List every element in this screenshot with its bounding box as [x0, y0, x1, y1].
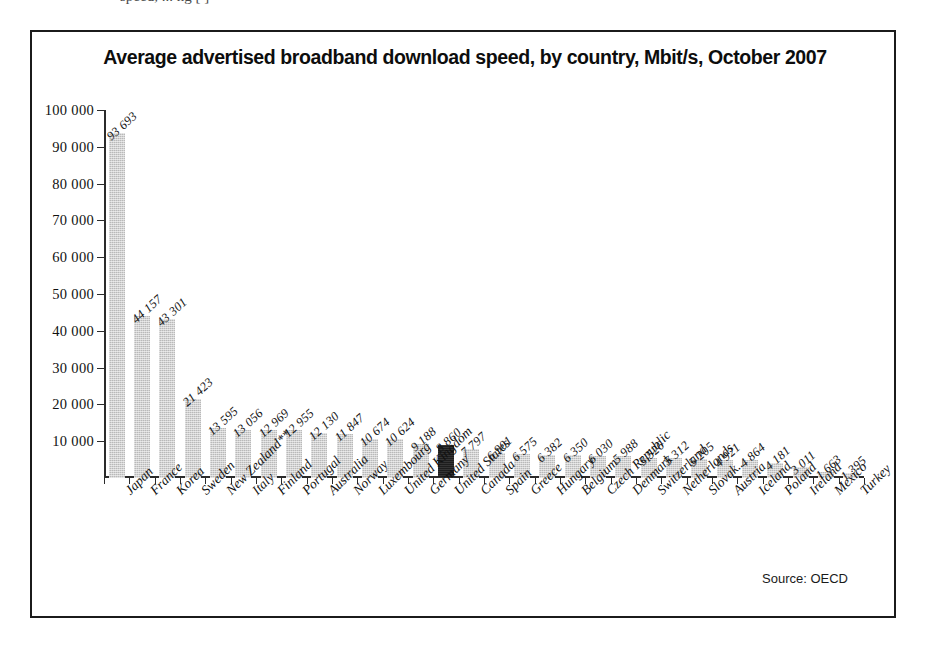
y-axis-tick	[97, 294, 104, 295]
x-axis-category-label: Czech Republic	[603, 487, 614, 498]
x-axis-category-label: Portugal	[299, 487, 310, 498]
source-note: Source: OECD	[762, 571, 848, 586]
y-axis-tick	[97, 220, 104, 221]
y-axis-tick	[97, 257, 104, 258]
x-axis-category-label: Denmark	[629, 487, 640, 498]
y-axis-tick	[97, 110, 104, 111]
y-axis-tick-label: 100 000	[45, 102, 94, 119]
x-axis-category-label: Spain	[502, 487, 513, 498]
x-axis-category-label: Poland	[781, 487, 792, 498]
x-axis-category-label: Iceland	[755, 487, 766, 498]
x-axis-category-label: Japan	[122, 487, 133, 498]
x-axis-category-label: United States	[451, 487, 462, 498]
cropped-text: speed, ... ng [ ]	[120, 0, 209, 5]
cropped-text-strip: speed, ... ng [ ]	[0, 0, 928, 28]
x-axis-category-label: Italy	[249, 487, 260, 498]
y-axis-tick-label: 40 000	[52, 322, 94, 339]
y-axis-tick-label: 50 000	[52, 286, 94, 303]
y-axis-tick-label: 30 000	[52, 359, 94, 376]
y-axis-tick-label: 90 000	[52, 138, 94, 155]
x-axis-category-label: Germany	[426, 487, 437, 498]
x-axis-tick	[104, 478, 105, 484]
x-axis-category-label: Australia	[325, 487, 336, 498]
bar	[159, 319, 175, 478]
x-axis-category-label: Norway	[350, 487, 361, 498]
y-axis-tick-label: 70 000	[52, 212, 94, 229]
x-axis-category-label: Turkey	[857, 487, 868, 498]
x-axis-category-label: Netherlands	[679, 487, 690, 498]
bar	[109, 133, 125, 478]
x-axis-category-label: Belgium	[578, 487, 589, 498]
x-axis-category-label: Sweden	[198, 487, 209, 498]
y-axis-tick	[97, 441, 104, 442]
chart-title: Average advertised broadband download sp…	[32, 46, 898, 69]
x-axis-category-label: Slovak..	[705, 487, 716, 498]
y-axis-tick-label: 10 000	[52, 433, 94, 450]
x-axis-category-label: Switzerland	[654, 487, 665, 498]
plot-area: 10 00020 00030 00040 00050 00060 00070 0…	[104, 110, 864, 478]
x-axis-category-label: Greece	[527, 487, 538, 498]
y-axis	[104, 110, 106, 478]
x-axis-category-label: Finland	[274, 487, 285, 498]
y-axis-tick-label: 20 000	[52, 396, 94, 413]
x-axis-category-label: Mexico	[831, 487, 842, 498]
bar	[134, 316, 150, 478]
y-axis-tick-label: 80 000	[52, 175, 94, 192]
figure-frame: Average advertised broadband download sp…	[30, 30, 896, 618]
x-axis-category-label: New Zealand**	[223, 487, 234, 498]
x-axis-category-label: Korea	[173, 487, 184, 498]
y-axis-tick-label: 60 000	[52, 249, 94, 266]
y-axis-tick	[97, 404, 104, 405]
y-axis-tick	[97, 331, 104, 332]
x-axis-category-label: Luxembourg	[375, 487, 386, 498]
y-axis-tick	[97, 147, 104, 148]
x-axis-category-label: Hungary	[553, 487, 564, 498]
y-axis-tick	[97, 184, 104, 185]
y-axis-tick	[97, 368, 104, 369]
x-axis-category-label: Canada	[477, 487, 488, 498]
x-axis-category-label: United Kingdom	[401, 487, 412, 498]
x-axis-category-label: France	[147, 487, 158, 498]
x-axis-category-label: Ireland	[806, 487, 817, 498]
x-axis-category-label: Austria	[730, 487, 741, 498]
